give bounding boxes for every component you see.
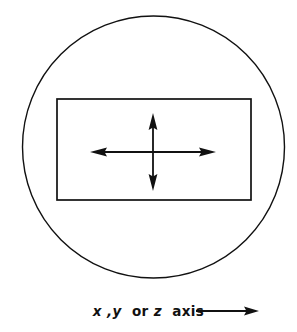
- caption-segment-axis: axis: [172, 303, 204, 319]
- caption-segment-or: or: [132, 303, 149, 319]
- figure-canvas: [0, 0, 297, 332]
- axis-caption-text: x ,y or z axis: [93, 303, 205, 319]
- axis-caption: x ,y or z axis: [0, 296, 297, 326]
- caption-segment-comma-y: ,y: [107, 303, 122, 319]
- figure-background: [0, 0, 297, 332]
- caption-segment-x: x: [93, 303, 102, 319]
- caption-segment-z: z: [154, 303, 162, 319]
